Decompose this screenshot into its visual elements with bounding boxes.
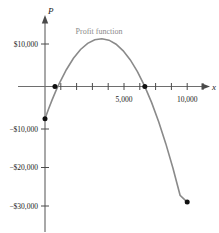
y-axis-arrowhead: [42, 15, 48, 24]
y-tick-label-neg20000: −$20,000: [9, 163, 38, 172]
profit-function-annotation: Profit function: [76, 27, 123, 36]
chart-figure: P x $10,000 −$10,000 −$20,000 −$30,000: [0, 0, 219, 233]
data-point-right-x-intercept: [142, 84, 147, 89]
profit-function-chart: P x $10,000 −$10,000 −$20,000 −$30,000: [0, 0, 219, 233]
data-point-right-endpoint: [185, 200, 190, 205]
y-tick-label-neg10000: −$10,000: [9, 125, 38, 134]
data-point-y-intercept: [43, 116, 48, 121]
x-tick-label-5000: 5,000: [116, 95, 133, 104]
data-point-left-x-intercept: [52, 84, 57, 89]
x-tick-label-10000: 10,000: [177, 95, 198, 104]
y-tick-label-neg30000: −$30,000: [9, 202, 38, 211]
y-tick-label-10000: $10,000: [14, 40, 39, 49]
profit-function-curve: [45, 39, 187, 202]
y-axis-label: P: [47, 6, 54, 16]
x-axis-label: x: [211, 82, 216, 92]
